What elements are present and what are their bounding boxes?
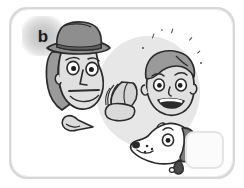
answer-box[interactable]: [185, 131, 224, 169]
object-small-pointed: [62, 116, 93, 131]
figure-smiling-boy: [141, 51, 196, 115]
object-feather: [105, 82, 137, 121]
figure-man-with-hat: [46, 22, 110, 110]
illustration-panel: b: [0, 0, 244, 188]
